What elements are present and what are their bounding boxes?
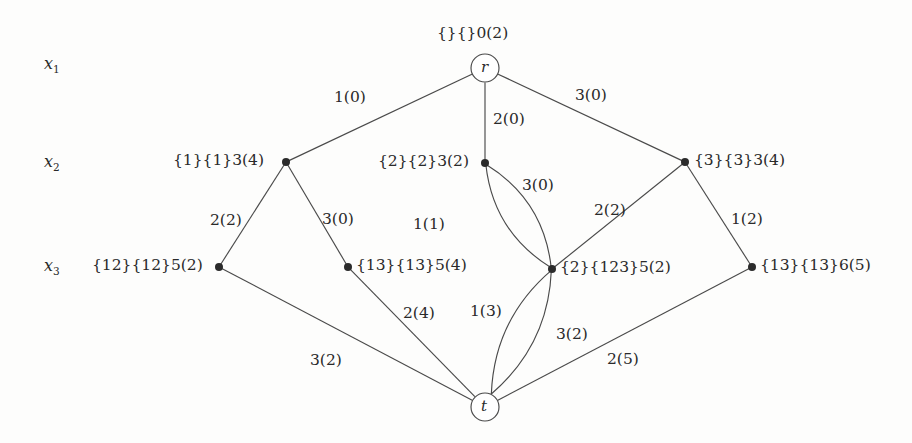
graph-edge [349, 268, 475, 397]
graph-node-b2[interactable] [344, 263, 352, 271]
row-label-base: x [44, 54, 53, 73]
vertex-label-b4: {13}{13}6(5) [760, 258, 871, 274]
row-label-base: x [44, 256, 53, 275]
graph-node-a2[interactable] [481, 159, 489, 167]
vertex-label-b2: {13}{13}5(4) [356, 258, 467, 274]
edge-label: 1(0) [334, 90, 366, 106]
edge-label: 2(0) [493, 112, 525, 128]
node-name-t: t [481, 399, 487, 414]
graph-node-b3[interactable] [548, 265, 556, 273]
row-label-x3: x3 [44, 258, 60, 277]
row-label-base: x [44, 152, 53, 171]
graph-edge [220, 268, 472, 401]
vertex-label-b1: {12}{12}5(2) [92, 258, 203, 274]
graph-edge [498, 268, 751, 401]
graph-edge [287, 74, 472, 161]
node-name-r: r [481, 60, 488, 75]
edge-label: 3(0) [322, 212, 354, 228]
vertex-label-a3: {3}{3}3(4) [694, 153, 785, 169]
vertex-label-a1: {1}{1}3(4) [173, 153, 264, 169]
row-label-subscript: 2 [53, 161, 60, 173]
edge-label: 2(5) [607, 352, 639, 368]
graph-node-a1[interactable] [282, 158, 290, 166]
graph-node-b4[interactable] [748, 263, 756, 271]
graph-svg [0, 0, 912, 443]
vertex-label-b3: {2}{123}5(2) [560, 260, 671, 276]
edge-label: 1(2) [731, 212, 763, 228]
diagram-canvas: 1(0)2(0)3(0)2(2)3(0)1(1)3(0)2(2)1(2)3(2)… [0, 0, 912, 443]
edge-label: 3(2) [556, 327, 588, 343]
graph-node-a3[interactable] [681, 158, 689, 166]
edge-label: 3(0) [522, 178, 554, 194]
row-label-subscript: 1 [53, 63, 60, 75]
graph-edge [491, 270, 551, 394]
row-label-x2: x2 [44, 154, 60, 173]
edges-layer [220, 74, 751, 400]
row-label-subscript: 3 [53, 265, 60, 277]
vertex-label-r: {}{}0(2) [437, 26, 508, 42]
edge-label: 1(3) [470, 304, 502, 320]
edge-label: 3(2) [310, 353, 342, 369]
edge-label: 2(2) [594, 203, 626, 219]
vertex-label-a2: {2}{2}3(2) [378, 154, 469, 170]
edge-label: 1(1) [413, 217, 445, 233]
edge-label: 2(4) [403, 306, 435, 322]
row-label-x1: x1 [44, 56, 60, 75]
edge-label: 2(2) [210, 213, 242, 229]
graph-node-b1[interactable] [215, 263, 223, 271]
graph-edge [491, 270, 551, 394]
edge-label: 3(0) [575, 88, 607, 104]
